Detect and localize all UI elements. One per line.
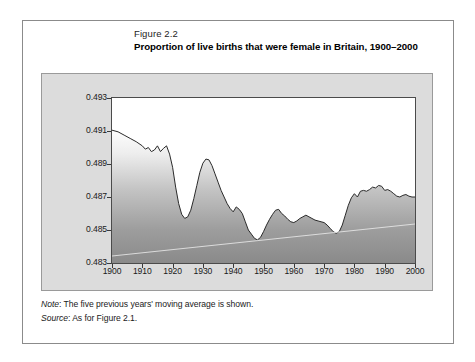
x-axis-labels: 1900191019201930194019501960197019801990…: [111, 266, 416, 280]
x-axis-tick-label: 1970: [309, 266, 339, 276]
x-axis-tick-label: 1920: [158, 266, 188, 276]
area-chart: [112, 98, 415, 263]
x-axis-tick-label: 1950: [249, 266, 279, 276]
note-line: Note: The five previous years' moving av…: [41, 297, 441, 311]
note-text: : The five previous years' moving averag…: [59, 299, 253, 309]
x-axis-tick-label: 1910: [127, 266, 157, 276]
figure-number: Figure 2.2: [134, 27, 444, 40]
y-axis-tick-label: 0.489: [73, 159, 107, 168]
source-label: Source: [41, 313, 68, 323]
title-block: Figure 2.2 Proportion of live births tha…: [134, 27, 444, 54]
page-title: Proportion of live births that were fema…: [134, 40, 444, 54]
y-axis-tick-label: 0.491: [73, 126, 107, 135]
source-text: : As for Figure 2.1.: [68, 313, 137, 323]
note-label: Note: [41, 299, 59, 309]
x-axis-tick-label: 1990: [370, 266, 400, 276]
y-axis-tick-label: 0.485: [73, 225, 107, 234]
y-axis-tick-label: 0.487: [73, 192, 107, 201]
footnotes: Note: The five previous years' moving av…: [41, 297, 441, 325]
x-axis-tick-label: 1960: [279, 266, 309, 276]
y-axis-tick-label: 0.493: [73, 93, 107, 102]
x-axis-tick-label: 1940: [218, 266, 248, 276]
area-fill: [112, 130, 415, 263]
source-line: Source: As for Figure 2.1.: [41, 311, 441, 325]
figure-card: Figure 2.2 Proportion of live births tha…: [22, 20, 454, 344]
x-axis-tick-label: 1980: [339, 266, 369, 276]
x-axis-tick-label: 2000: [400, 266, 430, 276]
plot-area: [111, 97, 416, 264]
y-axis-labels: 0.4930.4910.4890.4870.4850.483: [69, 74, 107, 290]
chart-panel: 0.4930.4910.4890.4870.4850.483: [41, 73, 433, 291]
x-axis-tick-label: 1930: [188, 266, 218, 276]
x-axis-tick-label: 1900: [97, 266, 127, 276]
